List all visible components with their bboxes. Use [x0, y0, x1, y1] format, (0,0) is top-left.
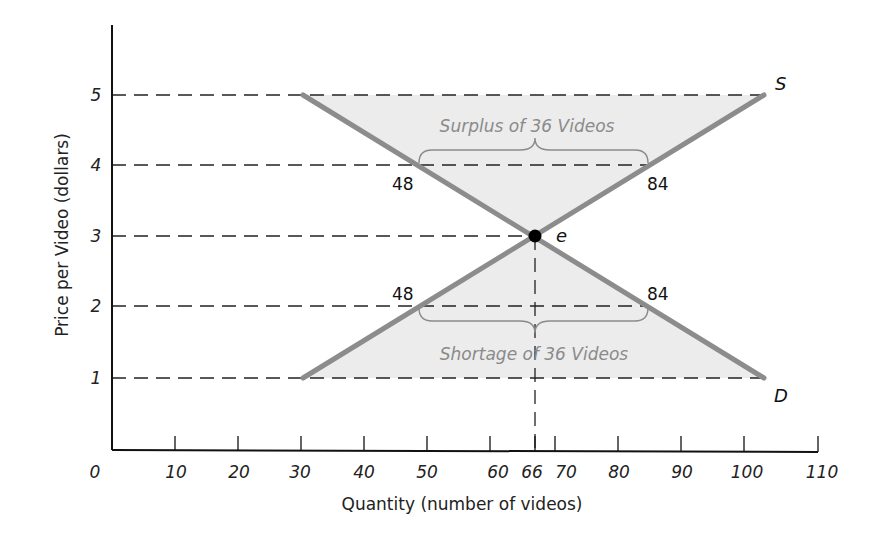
y-tick-label: 1 [91, 368, 102, 388]
supply-demand-chart: 0 10 20 30 40 50 60 66 70 80 90 100 110 … [0, 0, 880, 535]
y-tick-label: 3 [91, 226, 102, 246]
chart-figure: 0 10 20 30 40 50 60 66 70 80 90 100 110 … [0, 0, 880, 535]
x-tick-label: 10 [165, 462, 187, 482]
quantity-supplied-at-2: 48 [392, 284, 414, 304]
x-axis-title: Quantity (number of videos) [342, 494, 583, 514]
y-tick-label: 4 [91, 155, 102, 175]
x-tick-label: 20 [228, 462, 250, 482]
y-axis-title: Price per Video (dollars) [52, 133, 72, 337]
x-tick-label: 80 [608, 462, 630, 482]
equilibrium-label: e [556, 225, 567, 246]
quantity-demanded-at-4: 48 [392, 174, 414, 194]
x-tick-label: 50 [416, 462, 438, 482]
x-tick-label: 0 [90, 462, 101, 482]
x-tick-label: 110 [806, 462, 838, 482]
x-tick-label: 66 [521, 462, 543, 482]
y-tick-label: 5 [91, 85, 102, 105]
x-tick-label: 90 [671, 462, 693, 482]
equilibrium-point [529, 230, 542, 243]
x-tick-label: 60 [487, 462, 509, 482]
x-tick-label: 40 [353, 462, 375, 482]
surplus-annotation: Surplus of 36 Videos [440, 116, 615, 136]
quantity-supplied-at-4: 84 [647, 174, 669, 194]
quantity-demanded-at-2: 84 [647, 284, 669, 304]
x-tick-label: 30 [289, 462, 311, 482]
shortage-annotation: Shortage of 36 Videos [440, 344, 629, 364]
y-tick-label: 2 [91, 296, 102, 316]
supply-label: S [775, 73, 786, 94]
demand-label: D [774, 385, 788, 406]
x-tick-label: 70 [555, 462, 577, 482]
x-tick-label: 100 [731, 462, 763, 482]
x-axis [112, 450, 818, 452]
